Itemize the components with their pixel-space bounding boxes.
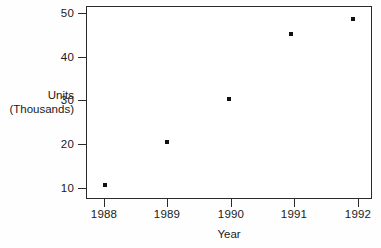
data-point-layer <box>86 6 372 199</box>
x-axis-label-1991: 1991 <box>267 208 321 221</box>
y-axis-title-line1: Units <box>0 88 74 102</box>
data-point-1992 <box>351 17 355 21</box>
y-axis-label-20: 20 <box>28 138 74 150</box>
y-axis-label-10: 10 <box>28 182 74 194</box>
x-axis-label-1989: 1989 <box>140 208 194 221</box>
scatter-chart: 50 40 30 20 10 Units (Thousands) 1988 19… <box>0 0 381 248</box>
data-point-1988 <box>103 183 107 187</box>
y-axis-label-40: 40 <box>28 51 74 63</box>
x-axis-tick-1990 <box>231 199 232 207</box>
x-axis-tick-1992 <box>358 199 359 207</box>
x-axis-label-1988: 1988 <box>77 208 131 221</box>
data-point-1990 <box>227 97 231 101</box>
x-axis-tick-1991 <box>294 199 295 207</box>
x-axis-label-1992: 1992 <box>331 208 381 221</box>
x-axis-tick-1989 <box>167 199 168 207</box>
data-point-1991 <box>289 32 293 36</box>
y-axis-title-line2: (Thousands) <box>0 102 74 116</box>
x-axis-title: Year <box>86 228 372 241</box>
y-axis-title: Units (Thousands) <box>0 88 74 116</box>
x-axis-tick-1988 <box>104 199 105 207</box>
y-axis-label-50: 50 <box>28 7 74 19</box>
x-axis-label-1990: 1990 <box>204 208 258 221</box>
data-point-1989 <box>165 140 169 144</box>
